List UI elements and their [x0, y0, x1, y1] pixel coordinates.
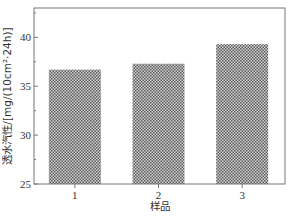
y-axis-ticks: 25303540: [20, 13, 38, 190]
bar-chart: 25303540 123 样品 透水汽性/[mg/(10cm²·24h)]: [0, 0, 291, 217]
x-axis-label: 样品: [150, 200, 170, 212]
y-tick-label: 30: [20, 129, 32, 141]
bar-1: [49, 70, 101, 184]
y-tick-label: 25: [20, 178, 32, 190]
bar-2: [133, 64, 185, 184]
x-tick-label: 1: [72, 189, 78, 201]
y-axis-label: 透水汽性/[mg/(10cm²·24h)]: [1, 27, 13, 164]
y-tick-label: 35: [20, 80, 32, 92]
bars-group: [49, 44, 268, 184]
y-tick-label: 40: [20, 31, 32, 43]
x-tick-label: 3: [239, 189, 245, 201]
bar-3: [216, 44, 268, 184]
x-axis-ticks: 123: [72, 184, 245, 201]
